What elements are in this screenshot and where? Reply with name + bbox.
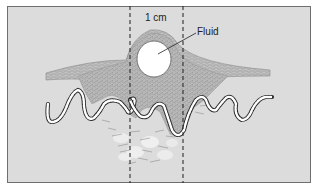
fluid-label: Fluid xyxy=(197,26,219,37)
blister-cross-section-figure: 1 cm Fluid xyxy=(0,0,317,192)
fluid-blister xyxy=(137,41,171,77)
measurement-label: 1 cm xyxy=(145,12,167,23)
blister-diagram xyxy=(0,0,317,192)
dermis-fat-layer xyxy=(102,105,208,164)
